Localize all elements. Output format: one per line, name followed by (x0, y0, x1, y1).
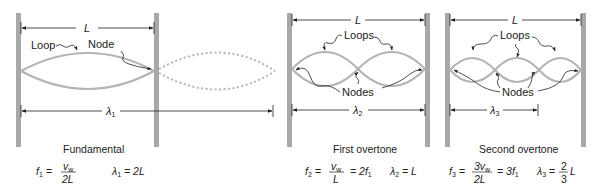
svg-text:vw: vw (63, 160, 74, 173)
svg-text:2L: 2L (473, 173, 486, 185)
node-callout-label: Node (88, 38, 114, 50)
length-dimension: L (21, 22, 154, 34)
svg-text:3: 3 (561, 173, 567, 185)
svg-text:= L: = L (402, 165, 417, 177)
nodes-callout-label: Nodes (502, 86, 534, 98)
svg-text:f2: f2 (305, 165, 312, 178)
length-dimension: L (292, 14, 425, 26)
svg-text:λ2: λ2 (389, 165, 399, 178)
svg-text:L: L (333, 173, 339, 185)
left-wall (16, 13, 21, 147)
loops-callout-label: Loops (500, 29, 530, 41)
svg-text:2L: 2L (61, 173, 74, 185)
caption: First overtone (333, 143, 397, 155)
standing-waves-diagram: L Loop Node λ1 Fundamental f1 = vw 2L (0, 0, 598, 193)
wavelength-dimension: λ3 (450, 104, 538, 117)
right-wall (154, 13, 159, 147)
string-lower (21, 71, 154, 89)
string-upper (21, 53, 154, 71)
wavelength-dimension: λ1 (21, 105, 273, 118)
svg-text:f3: f3 (449, 165, 456, 178)
loops-callout-label: Loops (344, 29, 374, 41)
svg-text:=: = (46, 165, 52, 177)
loop-callout-label: Loop (31, 39, 55, 51)
left-wall (287, 13, 292, 147)
length-label: L (355, 14, 361, 26)
svg-text:λ1: λ1 (111, 165, 121, 178)
svg-text:=: = (315, 165, 321, 177)
svg-text:λ3: λ3 (536, 165, 546, 178)
svg-text:=: = (549, 165, 555, 177)
svg-text:3vw: 3vw (474, 160, 491, 173)
wavelength-label: λ2 (352, 104, 362, 117)
panel-first-overtone: L Loops Nodes λ2 First overtone f2 = vw … (287, 13, 430, 185)
svg-text:L: L (570, 165, 576, 177)
left-wall (445, 13, 450, 147)
caption: Second overtone (479, 143, 559, 155)
right-wall (581, 13, 586, 147)
length-label: L (512, 14, 518, 26)
nodes-callout-label: Nodes (342, 86, 374, 98)
formula: f1 = vw 2L λ1 = 2L (36, 160, 145, 185)
svg-text:= 2f1: = 2f1 (350, 165, 372, 178)
dotted-continuation-lower (159, 71, 275, 90)
wavelength-label: λ3 (489, 104, 499, 117)
formula: f3 = 3vw 2L = 3f1 λ3 = 2 3 L (449, 160, 576, 185)
formula: f2 = vw L = 2f1 λ2 = L (305, 160, 417, 185)
caption: Fundamental (63, 143, 124, 155)
svg-text:= 3f1: = 3f1 (497, 165, 519, 178)
wavelength-dimension: λ2 (292, 104, 425, 117)
svg-text:=: = (459, 165, 465, 177)
panel-fundamental: L Loop Node λ1 Fundamental f1 = vw 2L (16, 13, 275, 185)
length-label: L (84, 22, 90, 34)
wavelength-label: λ1 (105, 105, 115, 118)
svg-text:f1: f1 (36, 165, 43, 178)
right-wall (425, 13, 430, 147)
length-dimension: L (450, 14, 581, 26)
svg-text:2: 2 (561, 160, 567, 172)
svg-text:vw: vw (331, 160, 342, 173)
svg-text:= 2L: = 2L (124, 165, 145, 177)
panel-second-overtone: L Loops Nodes λ3 Second overtone f3 = 3v… (445, 13, 586, 185)
dotted-continuation-upper (159, 52, 275, 71)
